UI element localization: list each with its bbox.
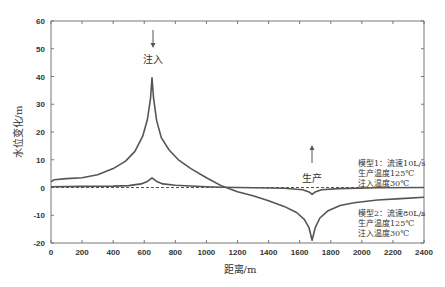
y-tick-label: -20 <box>33 239 45 248</box>
inject-annotation: 注入 <box>143 30 163 65</box>
x-tick-label: 0 <box>49 248 54 257</box>
y-tick-label: 30 <box>36 100 45 109</box>
arrow-head-up-icon <box>310 145 315 150</box>
y-tick-label: 40 <box>36 73 45 82</box>
line-chart: 0200400600800100012001400160018002000220… <box>0 0 445 287</box>
produce-label: 生产 <box>302 172 322 184</box>
x-tick-label: 2000 <box>353 248 371 257</box>
inject-label: 注入 <box>143 53 163 65</box>
produce-annotation: 生产 <box>302 145 322 184</box>
legend-model1-line3: 注入温度30℃ <box>358 178 409 188</box>
x-tick-label: 1800 <box>322 248 340 257</box>
x-tick-label: 400 <box>106 248 120 257</box>
x-tick-label: 800 <box>169 248 183 257</box>
y-tick-label: 0 <box>41 184 46 193</box>
x-tick-label: 1000 <box>198 248 216 257</box>
x-tick-label: 1200 <box>229 248 247 257</box>
legend-model1-line1: 模型1：流速10L/s <box>358 158 425 168</box>
x-tick-label: 1400 <box>260 248 278 257</box>
legend-model2: 模型2：流速80L/s 生产温度125℃ 注入温度30℃ <box>358 208 425 238</box>
y-tick-label: 20 <box>36 128 45 137</box>
legend-model2-line1: 模型2：流速80L/s <box>358 208 425 218</box>
x-tick-label: 2200 <box>384 248 402 257</box>
legend-model2-line3: 注入温度30℃ <box>358 228 409 238</box>
arrow-head-down-icon <box>151 43 156 48</box>
y-tick-label: -10 <box>33 211 45 220</box>
y-tick-label: 10 <box>36 156 45 165</box>
legend-model2-line2: 生产温度125℃ <box>358 218 414 228</box>
y-tick-label: 60 <box>36 17 45 26</box>
x-axis-title: 距离/m <box>224 263 257 275</box>
legend-model1: 模型1：流速10L/s 生产温度125℃ 注入温度30℃ <box>358 158 425 188</box>
x-tick-label: 1600 <box>291 248 309 257</box>
legend-model1-line2: 生产温度125℃ <box>358 168 414 178</box>
x-tick-label: 2400 <box>415 248 433 257</box>
x-tick-label: 600 <box>138 248 152 257</box>
y-axis-title: 水位变化/m <box>12 105 24 158</box>
x-tick-label: 200 <box>75 248 89 257</box>
y-tick-label: 50 <box>36 45 45 54</box>
